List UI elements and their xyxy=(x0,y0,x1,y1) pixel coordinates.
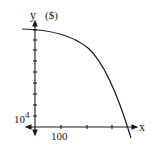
data-curve xyxy=(22,29,131,138)
x-axis-right-arrow-icon xyxy=(132,125,137,129)
y-axis xyxy=(33,21,37,135)
x-axis-left-arrow-icon xyxy=(26,125,31,129)
y-axis-down-arrow-icon xyxy=(33,130,37,135)
y-axis-unit-label: ($) xyxy=(45,9,58,22)
x-axis xyxy=(26,125,137,129)
y-axis-label: y xyxy=(30,8,36,22)
x-axis-label: x xyxy=(139,120,145,134)
y-tick-label-base: 10 xyxy=(14,113,26,125)
y-tick-label: 104 xyxy=(14,110,30,125)
chart: y ($) x 100 104 xyxy=(0,0,152,149)
x-tick-label: 100 xyxy=(51,130,68,142)
y-tick-label-exponent: 4 xyxy=(25,110,30,120)
